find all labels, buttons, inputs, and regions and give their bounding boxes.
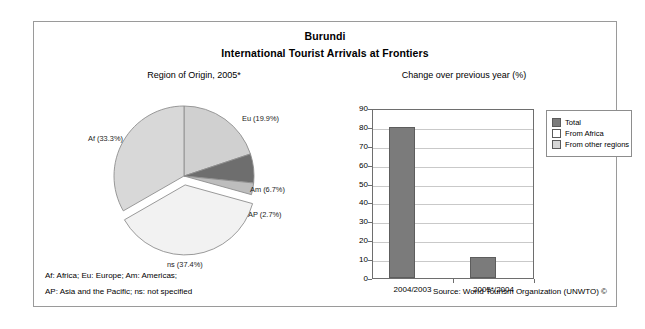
legend-label-from-africa: From Africa	[565, 129, 604, 138]
pie-label-ns: ns (37.4%)	[167, 260, 203, 269]
legend-item-from-other-regions: From other regions	[552, 140, 627, 149]
pie-label-af: Af (33.3%)	[88, 134, 123, 143]
bar-total-20042003	[389, 127, 415, 278]
y-axis-tick-label: 80	[334, 124, 368, 132]
legend-item-from-africa: From Africa	[552, 129, 627, 138]
y-axis-tick-label: 40	[334, 199, 368, 207]
y-axis-tick-label: 10	[334, 256, 368, 264]
footnote-line-2: AP: Asia and the Pacific; ns: not specif…	[45, 287, 192, 296]
legend-swatch-from-africa	[552, 129, 561, 138]
bar-plot-area	[372, 109, 534, 279]
bar-chart-heading: Change over previous year (%)	[324, 70, 604, 80]
legend-label-from-other-regions: From other regions	[565, 140, 629, 149]
screenshot-root: Burundi International Tourist Arrivals a…	[0, 0, 645, 329]
y-axis-tick-label: 70	[334, 143, 368, 151]
legend-swatch-total	[552, 118, 561, 127]
y-axis-tick-label: 0	[334, 275, 368, 283]
pie-label-eu: Eu (19.9%)	[242, 114, 279, 123]
pie-label-am: Am (6.7%)	[250, 185, 285, 194]
chart-frame: Burundi International Tourist Arrivals a…	[33, 21, 617, 307]
y-axis-tick	[368, 279, 372, 280]
y-axis-tick-label: 90	[334, 105, 368, 113]
legend-item-total: Total	[552, 118, 627, 127]
chart-legend: Total From Africa From other regions	[546, 110, 632, 157]
bar-total-20052004	[470, 257, 496, 278]
page-title: Burundi	[34, 30, 616, 42]
footnote-line-1: Af: Africa; Eu: Europe; Am: Americas;	[45, 271, 177, 280]
y-axis-tick-label: 20	[334, 237, 368, 245]
pie-chart: Eu (19.9%) Am (6.7%) AP (2.7%) ns (37.4%…	[96, 88, 311, 273]
x-axis-tick	[453, 279, 454, 283]
y-axis-tick-label: 60	[334, 162, 368, 170]
page-subtitle: International Tourist Arrivals at Fronti…	[34, 47, 616, 59]
pie-label-ap: AP (2.7%)	[248, 210, 282, 219]
source-credit: Source: World Tourism Organization (UNWT…	[433, 287, 607, 296]
pie-chart-heading: Region of Origin, 2005*	[54, 70, 334, 80]
y-axis-tick-label: 30	[334, 218, 368, 226]
bar-chart: 0102030405060708090 2004/20032005*/2004 …	[334, 84, 614, 289]
x-axis-tick	[534, 279, 535, 283]
legend-label-total: Total	[565, 118, 581, 127]
legend-swatch-from-other-regions	[552, 140, 561, 149]
y-axis-tick-label: 50	[334, 181, 368, 189]
